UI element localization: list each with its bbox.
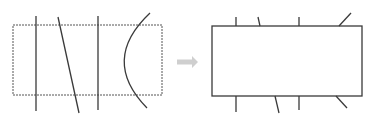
trimmed-stub xyxy=(339,13,351,26)
trimmed-stub xyxy=(336,96,347,108)
crossing-curve xyxy=(124,13,150,108)
right-panel-after-clipping xyxy=(212,13,362,113)
right-arrow-icon xyxy=(177,56,198,68)
clipping-diagram xyxy=(0,0,371,122)
transform-arrow xyxy=(177,56,198,68)
solid-result-rect xyxy=(212,26,362,96)
crossing-line xyxy=(58,17,79,113)
trimmed-stub xyxy=(258,17,260,26)
left-panel-before-clipping xyxy=(13,13,162,113)
trimmed-stub xyxy=(275,96,279,113)
